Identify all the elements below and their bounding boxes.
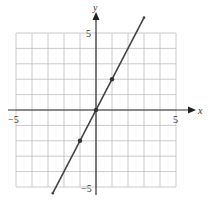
y-tick-neg5: −5	[81, 183, 92, 194]
line-plot	[52, 16, 146, 194]
data-point	[94, 108, 98, 112]
y-axis-arrow-icon	[93, 12, 100, 20]
x-tick-neg5: −5	[8, 114, 19, 125]
y-axis-label: y	[92, 2, 98, 13]
line-endpoint	[52, 192, 55, 195]
x-tick-pos5: 5	[173, 114, 178, 125]
line-endpoint	[143, 16, 146, 19]
data-point	[110, 77, 114, 81]
y-tick-pos5: 5	[86, 28, 91, 39]
series-line	[53, 18, 144, 194]
data-point	[78, 139, 82, 143]
x-axis-arrow-icon	[188, 107, 196, 114]
axes	[8, 12, 196, 195]
coordinate-plane: x y −5 5 5 −5	[0, 0, 209, 205]
x-axis-label: x	[197, 105, 203, 116]
